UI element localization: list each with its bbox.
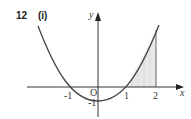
x-tick-2: 2 xyxy=(153,90,158,101)
graph: y x -1 O -1 1 2 xyxy=(0,0,191,119)
shaded-area xyxy=(126,30,156,87)
x-axis-label: x xyxy=(179,87,185,98)
x-tick-neg1: -1 xyxy=(64,90,72,101)
y-intercept-label: -1 xyxy=(88,97,96,108)
x-tick-1: 1 xyxy=(124,90,129,101)
y-axis-label: y xyxy=(88,9,94,20)
y-axis-arrow-icon xyxy=(95,12,101,21)
